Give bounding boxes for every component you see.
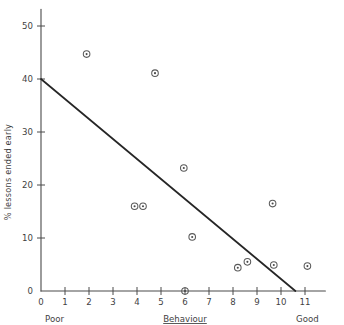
y-tick-label: 10 — [22, 233, 33, 243]
x-tick-label: 4 — [134, 297, 139, 307]
data-point — [304, 263, 311, 270]
data-point-dot — [272, 203, 274, 205]
data-point-dot — [306, 265, 308, 267]
y-axis-title: % lessons ended early — [3, 124, 13, 220]
x-axis-title: Behaviour — [163, 314, 207, 324]
data-point — [83, 51, 90, 58]
data-point-dot — [246, 261, 248, 263]
x-axis-anchor-good: Good — [296, 314, 319, 324]
data-point-dot — [154, 72, 156, 74]
x-tick-label: 5 — [158, 297, 163, 307]
x-tick-label: 8 — [230, 297, 235, 307]
x-tick-label: 10 — [276, 297, 287, 307]
x-tick-label: 2 — [86, 297, 91, 307]
data-point — [189, 234, 196, 241]
data-point-dot — [191, 236, 193, 238]
data-point — [235, 264, 242, 271]
data-point-dot — [237, 267, 239, 269]
data-point — [244, 259, 251, 266]
x-axis-anchor-poor: Poor — [45, 314, 64, 324]
data-point-dot — [183, 167, 185, 169]
data-point-dot — [273, 264, 275, 266]
data-point-dot — [142, 205, 144, 207]
data-point — [131, 203, 138, 210]
y-tick-label: 50 — [22, 21, 33, 31]
data-point — [269, 200, 276, 207]
scatter-chart: 0102030405001234567891011BehaviourPoorGo… — [0, 0, 344, 325]
data-point — [271, 262, 278, 269]
y-tick-label: 0 — [28, 286, 33, 296]
y-tick-label: 30 — [22, 127, 33, 137]
plot-area: 0102030405001234567891011BehaviourPoorGo… — [0, 0, 344, 325]
x-tick-label: 0 — [38, 297, 43, 307]
data-point-dot — [184, 290, 186, 292]
data-point-dot — [134, 205, 136, 207]
x-tick-label: 7 — [206, 297, 211, 307]
x-tick-label: 6 — [182, 297, 187, 307]
data-point-dot — [86, 53, 88, 55]
y-tick-label: 20 — [22, 180, 33, 190]
data-point — [152, 70, 159, 77]
y-tick-label: 40 — [22, 74, 33, 84]
x-tick-label: 1 — [62, 297, 67, 307]
regression-line — [41, 79, 295, 291]
data-point — [181, 165, 188, 172]
x-tick-label: 9 — [254, 297, 259, 307]
x-tick-label: 11 — [300, 297, 311, 307]
x-tick-label: 3 — [110, 297, 115, 307]
data-point — [140, 203, 147, 210]
